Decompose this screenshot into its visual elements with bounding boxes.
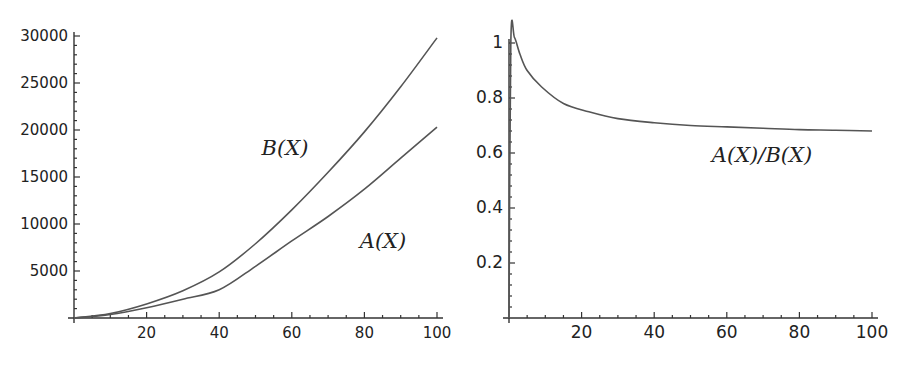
x-tick-label: 40 xyxy=(643,322,665,342)
series-line-axbx xyxy=(509,20,872,318)
left-chart: 2040608010050001000015000200002500030000… xyxy=(20,27,451,342)
x-tick-label: 80 xyxy=(789,322,811,342)
y-tick-label: 25000 xyxy=(20,74,68,92)
y-tick-label: 20000 xyxy=(20,121,68,139)
right-chart: 204060801000.20.40.60.81A(X)/B(X) xyxy=(476,20,888,342)
series-line-ax xyxy=(74,127,437,318)
x-tick-label: 40 xyxy=(210,324,229,342)
y-tick-label: 0.2 xyxy=(476,252,503,272)
x-tick-label: 100 xyxy=(423,324,452,342)
x-tick-label: 20 xyxy=(571,322,593,342)
charts-figure: 2040608010050001000015000200002500030000… xyxy=(0,0,909,366)
y-tick-label: 0.6 xyxy=(476,142,503,162)
label-a-x: A(X) xyxy=(358,229,407,253)
x-tick-label: 60 xyxy=(716,322,738,342)
y-tick-label: 1 xyxy=(492,32,503,52)
label-ratio: A(X)/B(X) xyxy=(710,143,812,167)
label-b-x: B(X) xyxy=(261,136,309,160)
x-tick-label: 100 xyxy=(856,322,888,342)
y-tick-label: 15000 xyxy=(20,168,68,186)
y-tick-label: 0.8 xyxy=(476,87,503,107)
y-tick-label: 30000 xyxy=(20,27,68,45)
x-tick-label: 60 xyxy=(282,324,301,342)
series-line-bx xyxy=(74,38,437,318)
y-tick-label: 10000 xyxy=(20,215,68,233)
x-tick-label: 80 xyxy=(355,324,374,342)
y-tick-label: 5000 xyxy=(30,262,68,280)
x-tick-label: 20 xyxy=(137,324,156,342)
y-tick-label: 0.4 xyxy=(476,197,503,217)
